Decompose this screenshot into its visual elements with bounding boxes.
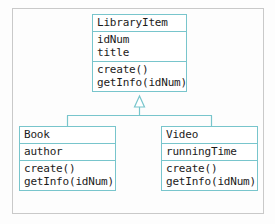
class-methods-section: create() getInfo(idNum): [162, 160, 257, 190]
class-name: Video: [166, 128, 253, 141]
class-attributes-section: author: [20, 143, 115, 160]
method-item: getInfo(idNum): [24, 175, 111, 188]
attribute-item: runningTime: [166, 145, 253, 158]
class-name-section: Video: [162, 127, 257, 143]
class-attributes-section: idNum title: [93, 31, 186, 61]
uml-class-libraryitem[interactable]: LibraryItem idNum title create() getInfo…: [92, 14, 187, 92]
class-methods-section: create() getInfo(idNum): [93, 61, 186, 91]
method-item: getInfo(idNum): [97, 76, 182, 89]
class-name: Book: [24, 128, 111, 141]
class-attributes-section: runningTime: [162, 143, 257, 160]
method-item: create(): [97, 63, 182, 76]
uml-class-video[interactable]: Video runningTime create() getInfo(idNum…: [161, 126, 258, 191]
method-item: create(): [166, 162, 253, 175]
uml-class-book[interactable]: Book author create() getInfo(idNum): [19, 126, 116, 191]
attribute-item: author: [24, 145, 111, 158]
class-name-section: Book: [20, 127, 115, 143]
method-item: create(): [24, 162, 111, 175]
uml-class-diagram: LibraryItem idNum title create() getInfo…: [0, 0, 275, 224]
class-name: LibraryItem: [97, 16, 182, 29]
attribute-item: idNum: [97, 33, 182, 46]
class-name-section: LibraryItem: [93, 15, 186, 31]
attribute-item: title: [97, 46, 182, 59]
method-item: getInfo(idNum): [166, 175, 253, 188]
class-methods-section: create() getInfo(idNum): [20, 160, 115, 190]
